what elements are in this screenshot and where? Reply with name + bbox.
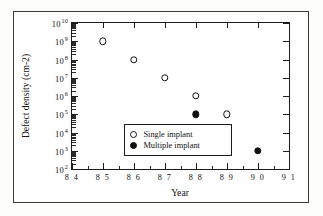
y-tick-minor <box>72 64 76 65</box>
y-tick-minor <box>72 140 76 141</box>
legend-label: Single implant <box>143 129 192 140</box>
y-tick-minor <box>72 160 76 161</box>
y-tick-minor <box>72 103 76 104</box>
x-tick-major <box>165 163 166 169</box>
y-tick-major-right <box>283 96 289 97</box>
x-tick-major <box>196 163 197 169</box>
data-point-single-implant <box>223 111 230 118</box>
y-tick-minor <box>72 85 76 86</box>
y-tick-label: 107 <box>55 72 68 84</box>
filled-circle-icon <box>130 142 137 149</box>
y-tick-minor <box>72 138 76 139</box>
y-tick-label: 1010 <box>52 17 68 29</box>
x-tick-label: 8 8 <box>189 173 203 182</box>
x-tick-minor <box>181 166 182 170</box>
y-tick-minor <box>72 133 76 134</box>
y-tick-minor <box>72 49 76 50</box>
y-tick-major-right <box>283 78 289 79</box>
y-tick-minor <box>72 122 76 123</box>
y-tick-minor <box>72 106 76 107</box>
y-tick-minor <box>72 33 76 34</box>
y-tick-minor <box>72 116 76 117</box>
y-tick-label: 106 <box>55 90 68 102</box>
y-tick-major-right <box>283 114 289 115</box>
y-tick-major-right <box>283 169 289 170</box>
y-tick-major <box>72 169 78 170</box>
y-tick-minor <box>72 72 76 73</box>
y-tick-minor <box>72 155 76 156</box>
y-tick-minor <box>72 109 76 110</box>
y-tick-label: 103 <box>55 145 68 157</box>
y-tick-minor <box>72 42 76 43</box>
y-tick-minor <box>72 28 76 29</box>
x-tick-minor <box>243 166 244 170</box>
x-tick-label: 8 7 <box>158 173 172 182</box>
y-tick-minor <box>72 43 76 44</box>
y-tick-label: 104 <box>55 127 68 139</box>
y-tick-minor <box>72 145 76 146</box>
open-circle-icon <box>130 131 137 138</box>
y-tick-minor <box>72 61 76 62</box>
x-tick-major-top <box>103 23 104 28</box>
y-tick-minor <box>72 36 76 37</box>
y-tick-minor <box>72 115 76 116</box>
legend-label: Multiple implant <box>143 140 200 151</box>
y-tick-minor <box>72 87 76 88</box>
y-tick-minor <box>72 62 76 63</box>
y-tick-label: 108 <box>55 54 68 66</box>
y-tick-major-right <box>283 60 289 61</box>
x-tick-minor <box>150 166 151 170</box>
y-tick-minor <box>72 124 76 125</box>
y-tick-minor <box>72 134 76 135</box>
y-tick-minor <box>72 91 76 92</box>
y-tick-minor <box>72 118 76 119</box>
x-tick-major <box>227 163 228 169</box>
data-point-multiple-implant <box>254 147 261 154</box>
x-tick-label: 9 1 <box>282 173 296 182</box>
y-tick-minor <box>72 65 76 66</box>
y-tick-minor <box>72 82 76 83</box>
y-tick-major-right <box>283 151 289 152</box>
y-tick-minor <box>72 51 76 52</box>
y-tick-minor <box>72 54 76 55</box>
y-tick-minor <box>72 98 76 99</box>
figure-root: Defect density (cm-2) Year 1010109108107… <box>0 0 323 216</box>
x-tick-major-top <box>134 23 135 28</box>
y-tick-minor <box>72 81 76 82</box>
x-tick-major-top <box>165 23 166 28</box>
x-tick-major <box>134 163 135 169</box>
x-tick-major <box>103 163 104 169</box>
y-tick-minor <box>72 117 76 118</box>
x-tick-label: 8 6 <box>127 173 141 182</box>
y-tick-minor <box>72 83 76 84</box>
y-tick-minor <box>72 156 76 157</box>
x-tick-label: 9 0 <box>251 173 265 182</box>
x-tick-minor <box>88 166 89 170</box>
x-tick-major-top <box>289 23 290 28</box>
y-tick-minor <box>72 60 76 61</box>
y-tick-minor <box>72 152 76 153</box>
data-point-single-implant <box>161 74 168 81</box>
y-tick-minor <box>72 44 76 45</box>
x-tick-label: 8 5 <box>96 173 110 182</box>
y-tick-minor <box>72 142 76 143</box>
y-tick-minor <box>72 69 76 70</box>
x-tick-label: 8 9 <box>220 173 234 182</box>
y-tick-minor <box>72 101 76 102</box>
y-tick-minor <box>72 47 76 48</box>
plot-area: 1010109108107106105104103102 8 48 58 68 … <box>71 22 290 170</box>
y-tick-minor <box>72 80 76 81</box>
y-tick-minor <box>72 135 76 136</box>
y-tick-minor <box>72 158 76 159</box>
x-tick-major-top <box>227 23 228 28</box>
y-tick-minor <box>72 153 76 154</box>
x-tick-label: 8 4 <box>65 173 79 182</box>
x-tick-minor <box>212 166 213 170</box>
legend-box: Single implant Multiple implant <box>124 124 232 156</box>
y-tick-minor <box>72 45 76 46</box>
x-tick-major <box>72 163 73 169</box>
y-tick-minor <box>72 30 76 31</box>
y-tick-label: 105 <box>55 108 68 120</box>
y-tick-major-right <box>283 41 289 42</box>
y-tick-minor <box>72 120 76 121</box>
